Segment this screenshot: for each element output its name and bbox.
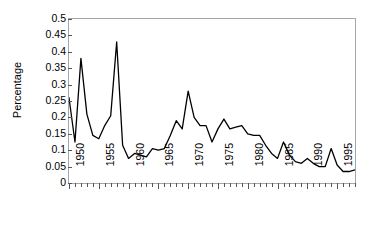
y-axis-tick-mark (68, 19, 72, 20)
x-axis-minor-tick-mark (325, 183, 326, 187)
y-axis-tick-mark (68, 117, 72, 118)
x-axis-major-tick-mark (99, 183, 100, 189)
x-axis-tick-label: 1995 (342, 143, 355, 189)
x-axis-major-tick-mark (248, 183, 249, 189)
x-axis-major-tick-mark (188, 183, 189, 189)
x-axis-tick-label: 1955 (104, 143, 117, 189)
x-axis-minor-tick-mark (182, 183, 183, 187)
x-axis-tick-label: 1980 (253, 143, 266, 189)
x-axis-tick-label: 1990 (312, 143, 325, 189)
y-axis-tick-label: 0.3 (26, 79, 66, 89)
y-axis-tick-label: 0.45 (26, 29, 66, 39)
y-axis-tick-mark (68, 150, 72, 151)
y-axis-tick-mark (68, 134, 72, 135)
x-axis-minor-tick-mark (212, 183, 213, 187)
y-axis-tick-label: 0.2 (26, 111, 66, 121)
y-axis-tick-mark (68, 85, 72, 86)
x-axis-minor-tick-mark (355, 183, 356, 187)
y-axis-tick-label: 0.05 (26, 161, 66, 171)
x-axis-tick-label: 1950 (74, 143, 87, 189)
x-axis-major-tick-mark (307, 183, 308, 189)
x-axis-minor-tick-mark (301, 183, 302, 187)
x-axis-minor-tick-mark (152, 183, 153, 187)
x-axis-major-tick-mark (278, 183, 279, 189)
x-axis-major-tick-mark (337, 183, 338, 189)
x-axis-minor-tick-mark (176, 183, 177, 187)
x-axis-major-tick-mark (218, 183, 219, 189)
y-axis-tick-labels: 00.050.10.150.20.250.30.350.40.450.5 (22, 0, 66, 240)
x-axis-minor-tick-mark (272, 183, 273, 187)
x-axis-tick-label: 1970 (193, 143, 206, 189)
x-axis-tick-label: 1975 (223, 143, 236, 189)
y-axis-tick-label: 0.1 (26, 144, 66, 154)
x-axis-tick-label: 1960 (134, 143, 147, 189)
chart-figure: Percentage 00.050.10.150.20.250.30.350.4… (0, 0, 381, 240)
y-axis-tick-label: 0.25 (26, 95, 66, 105)
y-axis-tick-mark (68, 35, 72, 36)
y-axis-tick-mark (68, 52, 72, 53)
x-axis-tick-label: 1985 (283, 143, 296, 189)
x-axis-tick-label: 1965 (163, 143, 176, 189)
y-axis-tick-mark (68, 183, 72, 184)
y-axis-tick-label: 0.5 (26, 13, 66, 23)
x-axis-minor-tick-mark (331, 183, 332, 187)
y-axis-tick-label: 0 (26, 177, 66, 187)
x-axis-minor-tick-mark (87, 183, 88, 187)
x-axis-minor-tick-mark (242, 183, 243, 187)
y-axis-tick-label: 0.35 (26, 62, 66, 72)
y-axis-tick-label: 0.4 (26, 46, 66, 56)
x-axis-minor-tick-mark (123, 183, 124, 187)
y-axis-tick-label: 0.15 (26, 128, 66, 138)
y-axis-tick-mark (68, 167, 72, 168)
y-axis-tick-mark (68, 101, 72, 102)
y-axis-tick-mark (68, 68, 72, 69)
x-axis-major-tick-mark (129, 183, 130, 189)
x-axis-minor-tick-mark (93, 183, 94, 187)
x-axis-major-tick-mark (158, 183, 159, 189)
x-axis-minor-tick-mark (206, 183, 207, 187)
